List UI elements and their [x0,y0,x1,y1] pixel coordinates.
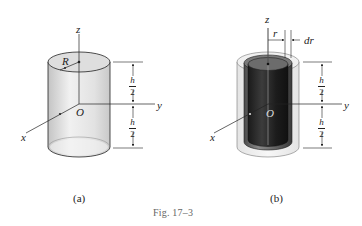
fraction-denominator: 2 [319,130,324,139]
figure-caption: Fig. 17–3 [153,207,193,218]
panel-b-caption: (b) [270,192,283,204]
panel-b-x-label: x [210,132,215,143]
panel-a-z-label: z [76,24,80,35]
fraction-numerator: h [130,76,135,85]
panel-b-upper-half-height: h2 [318,76,325,97]
fraction-numerator: h [319,118,324,127]
panel-a-x-label: x [21,132,26,143]
panel-a-origin-label: O [76,107,84,118]
panel-b-y-label: y [344,100,349,111]
fraction-numerator: h [130,118,135,127]
fraction-denominator: 2 [130,88,135,97]
panel-a-height-dimension [113,62,143,148]
panel-a-radius-label: R [62,56,69,67]
panel-b-radius-label: r [273,28,277,39]
panel-b-shell-thickness-label: dr [304,35,314,46]
fraction-numerator: h [319,76,324,85]
panel-b-z-label: z [265,14,269,25]
panel-a-upper-half-height: h2 [129,76,136,97]
panel-b-lower-half-height: h2 [318,118,325,139]
fraction-denominator: 2 [130,130,135,139]
panel-a-lower-half-height: h2 [129,118,136,139]
panel-a-y-label: y [157,100,162,111]
panel-a-caption: (a) [73,192,85,204]
panel-b-origin-label: O [266,108,274,119]
fraction-denominator: 2 [319,88,324,97]
